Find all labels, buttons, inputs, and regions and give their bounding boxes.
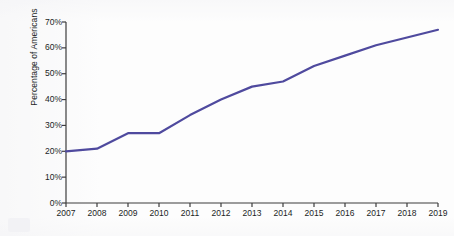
x-axis-tick-label: 2019 <box>418 209 454 218</box>
data-series-line <box>66 30 438 152</box>
x-axis-ticks <box>66 203 438 207</box>
chart-canvas <box>0 0 454 236</box>
plot-area: Percentage of Americans 0%10%20%30%40%50… <box>0 0 454 236</box>
line-chart: Percentage of Americans 0%10%20%30%40%50… <box>0 0 454 236</box>
